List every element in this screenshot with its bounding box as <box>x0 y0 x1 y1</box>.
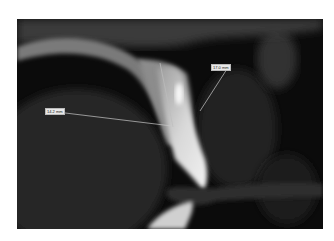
measurement-label-14mm: 14.2 mm <box>45 108 65 115</box>
measurement-label-17mm: 17.0 mm <box>211 64 231 71</box>
ct-scan-image <box>17 19 323 229</box>
ct-scan-graphic <box>17 19 323 229</box>
